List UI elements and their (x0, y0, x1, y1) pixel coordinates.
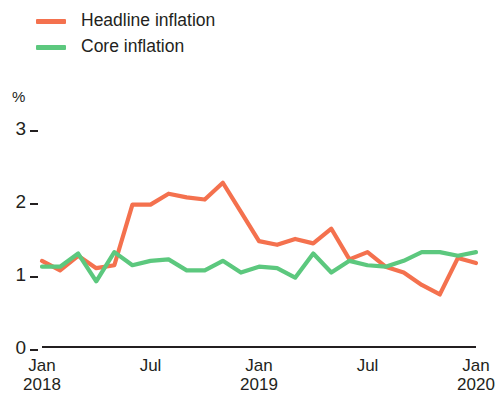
series-line-headline (42, 183, 476, 295)
